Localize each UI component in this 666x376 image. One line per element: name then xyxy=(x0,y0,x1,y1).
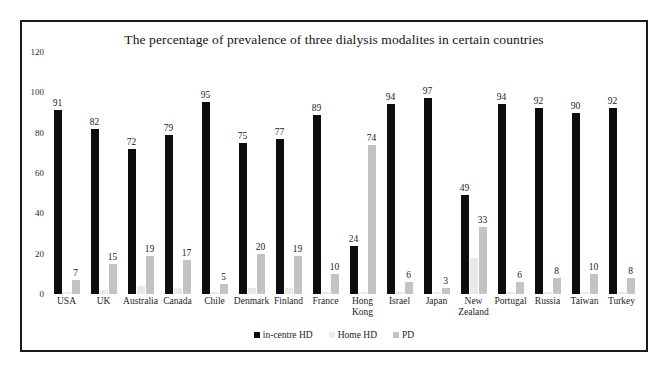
bar-value-label: 75 xyxy=(238,131,248,141)
bar-group: 946 xyxy=(381,52,418,294)
legend-swatch-icon xyxy=(393,332,399,338)
legend-label: Home HD xyxy=(338,330,377,340)
bar-group: 8215 xyxy=(85,52,122,294)
bar-value-label: 91 xyxy=(53,98,63,108)
bar[interactable]: 8 xyxy=(627,278,635,294)
legend-item[interactable]: PD xyxy=(393,330,414,340)
x-axis-label: USA xyxy=(48,296,85,318)
bar[interactable]: 79 xyxy=(165,135,173,294)
bar-value-label: 97 xyxy=(423,86,433,96)
bar[interactable] xyxy=(581,292,589,294)
legend-label: in-centre HD xyxy=(263,330,313,340)
bar[interactable] xyxy=(433,292,441,294)
bar[interactable] xyxy=(137,286,145,294)
bar[interactable] xyxy=(285,288,293,294)
bar-value-label: 95 xyxy=(201,90,211,100)
bar-value-label: 74 xyxy=(367,133,377,143)
bar-group: 7219 xyxy=(122,52,159,294)
bar-group: 917 xyxy=(48,52,85,294)
bar[interactable]: 75 xyxy=(239,143,247,294)
bar-group: 7917 xyxy=(159,52,196,294)
x-axis-label: Taiwan xyxy=(566,296,603,318)
x-axis-label: Turkey xyxy=(603,296,640,318)
bar[interactable]: 20 xyxy=(257,254,265,294)
bar-value-label: 7 xyxy=(73,268,78,278)
bar[interactable]: 90 xyxy=(572,113,580,295)
legend-swatch-icon xyxy=(254,332,260,338)
bar[interactable]: 33 xyxy=(479,227,487,294)
bar-value-label: 49 xyxy=(460,183,470,193)
bar-group: 4933 xyxy=(455,52,492,294)
chart-frame: The percentage of prevalence of three di… xyxy=(20,20,648,352)
bar-value-label: 19 xyxy=(293,244,303,254)
bar-group: 928 xyxy=(603,52,640,294)
y-axis-tick-100: 100 xyxy=(31,87,45,97)
y-axis-tick-0: 0 xyxy=(40,289,45,299)
bar[interactable]: 82 xyxy=(91,129,99,294)
bar[interactable]: 5 xyxy=(220,284,228,294)
bar[interactable]: 8 xyxy=(553,278,561,294)
bar[interactable]: 94 xyxy=(498,104,506,294)
bar-value-label: 15 xyxy=(108,252,118,262)
bar[interactable]: 15 xyxy=(109,264,117,294)
bar[interactable] xyxy=(248,288,256,294)
bar-value-label: 94 xyxy=(386,92,396,102)
x-axis-label: France xyxy=(307,296,344,318)
bar-group: 946 xyxy=(492,52,529,294)
bar-value-label: 90 xyxy=(571,101,581,111)
bar-value-label: 77 xyxy=(275,127,285,137)
bar[interactable] xyxy=(618,292,626,294)
bar-value-label: 8 xyxy=(628,266,633,276)
y-axis-tick-80: 80 xyxy=(35,128,44,138)
bar-value-label: 82 xyxy=(90,117,100,127)
legend-item[interactable]: Home HD xyxy=(329,330,377,340)
bar[interactable]: 19 xyxy=(294,256,302,294)
bar[interactable]: 95 xyxy=(202,102,210,294)
bar[interactable]: 10 xyxy=(331,274,339,294)
bar-group: 2474 xyxy=(344,52,381,294)
bar[interactable]: 17 xyxy=(183,260,191,294)
bar[interactable]: 7 xyxy=(72,280,80,294)
x-axis-label: UK xyxy=(85,296,122,318)
bar[interactable] xyxy=(507,292,515,294)
bar-value-label: 17 xyxy=(182,248,192,258)
bar[interactable]: 91 xyxy=(54,110,62,294)
bar-value-label: 6 xyxy=(517,270,522,280)
bar-group: 973 xyxy=(418,52,455,294)
bar[interactable] xyxy=(322,292,330,294)
bar[interactable]: 24 xyxy=(350,246,358,294)
bar-value-label: 92 xyxy=(534,96,544,106)
bar[interactable]: 92 xyxy=(535,108,543,294)
bar-value-label: 20 xyxy=(256,242,266,252)
bar[interactable]: 19 xyxy=(146,256,154,294)
bar[interactable]: 77 xyxy=(276,139,284,294)
x-axis-labels: USAUKAustraliaCanadaChileDenmarkFinlandF… xyxy=(48,296,640,318)
bar[interactable]: 3 xyxy=(442,288,450,294)
bar[interactable]: 97 xyxy=(424,98,432,294)
bar[interactable] xyxy=(359,292,367,294)
bar[interactable] xyxy=(100,290,108,294)
bar[interactable]: 94 xyxy=(387,104,395,294)
legend-item[interactable]: in-centre HD xyxy=(254,330,313,340)
bar[interactable]: 49 xyxy=(461,195,469,294)
y-axis-tick-120: 120 xyxy=(31,47,45,57)
bar[interactable] xyxy=(470,258,478,294)
bar[interactable] xyxy=(396,292,404,294)
bar[interactable]: 6 xyxy=(516,282,524,294)
bar[interactable]: 92 xyxy=(609,108,617,294)
bar[interactable]: 74 xyxy=(368,145,376,294)
bar[interactable] xyxy=(211,292,219,294)
bar[interactable] xyxy=(544,292,552,294)
x-axis-label: Canada xyxy=(159,296,196,318)
bar-value-label: 72 xyxy=(127,137,137,147)
bar[interactable]: 6 xyxy=(405,282,413,294)
bar-group: 955 xyxy=(196,52,233,294)
bar[interactable]: 72 xyxy=(128,149,136,294)
bar[interactable] xyxy=(63,292,71,294)
bar[interactable]: 89 xyxy=(313,115,321,294)
x-axis-label: Denmark xyxy=(233,296,270,318)
legend-label: PD xyxy=(402,330,414,340)
bar[interactable]: 10 xyxy=(590,274,598,294)
x-axis-label: Russia xyxy=(529,296,566,318)
bar[interactable] xyxy=(174,288,182,294)
